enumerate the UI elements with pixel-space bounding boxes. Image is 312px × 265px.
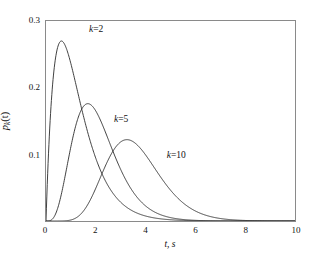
x-tick-label-0: 0: [43, 226, 48, 235]
y-axis-title-base: p: [0, 125, 10, 130]
y-axis-title: pk(t): [0, 112, 12, 131]
x-axis-title: t, s: [164, 240, 175, 250]
curve-label-k5: k=5: [114, 115, 128, 125]
y-tick-label-0.3: 0.3: [18, 16, 40, 25]
curve-paths: [46, 41, 295, 221]
x-tick-label-2: 2: [93, 226, 98, 235]
plot-area: [45, 20, 296, 222]
curve-k2: [46, 41, 295, 221]
x-tick-label-10: 10: [292, 226, 301, 235]
x-tick-label-8: 8: [244, 226, 249, 235]
x-tick-label-4: 4: [143, 226, 148, 235]
curve-label-k2: k=2: [89, 25, 103, 35]
curve-label-k10: k=10: [167, 151, 186, 161]
curve-k5: [46, 104, 295, 221]
erlang-distribution-figure: 0.3 0.2 0.1 0 2 4 6 8 10 pk(t) t, s k=2 …: [0, 0, 312, 265]
y-axis-title-argument: (t): [0, 112, 10, 122]
curve-canvas: [46, 21, 295, 221]
x-tick-label-6: 6: [193, 226, 198, 235]
y-tick-label-0.2: 0.2: [18, 83, 40, 92]
y-tick-label-0.1: 0.1: [18, 150, 40, 159]
y-axis-title-subscript: k: [3, 122, 12, 125]
